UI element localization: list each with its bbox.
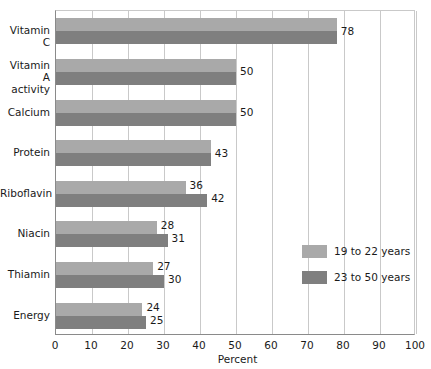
bar-value-label: 28 [161,219,174,232]
legend-swatch [302,245,327,258]
bar-value-label: 36 [190,179,203,192]
bar-value-label: 50 [240,106,253,119]
category-label: Vitamin C [0,24,50,48]
x-tick-label: 40 [184,339,214,351]
bar-value-label: 30 [168,273,181,286]
x-tick-label: 20 [112,339,142,351]
x-tick-label: 0 [40,339,70,351]
category-label-line: activity [0,83,50,95]
category-label-line: Calcium [0,106,50,118]
bar [56,303,142,316]
x-axis-title-text: Percent [218,353,258,365]
category-label-line: Niacin [0,227,50,239]
bar-value-label: 27 [157,260,170,273]
category-label: Vitamin Aactivity [0,59,50,95]
bar [56,316,146,329]
category-label-line: Vitamin C [0,24,50,48]
category-label: Protein [0,146,50,158]
gridline-70 [308,11,309,334]
bar-value-label: 43 [215,147,228,160]
bar [56,262,153,275]
gridline-50 [236,11,237,334]
x-axis-title: Percent [0,353,431,365]
bar [56,72,236,85]
x-tick-label: 100 [400,339,430,351]
bar-value-label: 78 [341,25,354,38]
bar [56,140,211,153]
bar [56,113,236,126]
gridline-80 [344,11,345,334]
bar-chart: 785050433642283127302425 Vitamin CVitami… [0,0,431,369]
bar [56,181,186,194]
gridline-60 [272,11,273,334]
legend-swatch [302,271,327,284]
bar-value-label: 42 [211,192,224,205]
category-label: Thiamin [0,268,50,280]
legend-label: 23 to 50 years [334,270,410,284]
category-label-line: Riboflavin [0,187,50,199]
bar [56,31,337,44]
bar [56,100,236,113]
gridline-100 [416,11,417,334]
legend-label: 19 to 22 years [334,244,410,258]
bar [56,153,211,166]
category-label: Niacin [0,227,50,239]
category-label-line: Thiamin [0,268,50,280]
category-label: Energy [0,309,50,321]
x-tick-label: 60 [256,339,286,351]
bar [56,18,337,31]
bar [56,275,164,288]
x-tick-label: 30 [148,339,178,351]
bar-value-label: 50 [240,65,253,78]
category-label-line: Energy [0,309,50,321]
category-label-line: Vitamin A [0,59,50,83]
bar [56,59,236,72]
bar-value-label: 31 [172,232,185,245]
plot-area: 785050433642283127302425 [55,10,415,335]
category-label: Calcium [0,106,50,118]
category-label-line: Protein [0,146,50,158]
gridline-90 [380,11,381,334]
x-tick-label: 70 [292,339,322,351]
category-label: Riboflavin [0,187,50,199]
x-tick-label: 80 [328,339,358,351]
x-tick-label: 10 [76,339,106,351]
bar [56,221,157,234]
bar [56,234,168,247]
x-tick-label: 50 [220,339,250,351]
bar-value-label: 24 [146,301,159,314]
x-tick-label: 90 [364,339,394,351]
bar-value-label: 25 [150,314,163,327]
bar [56,194,207,207]
